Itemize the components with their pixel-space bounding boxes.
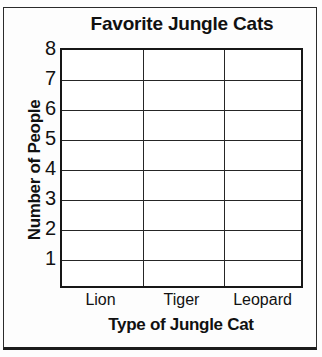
x-axis-tick-label: Lion [60,291,141,313]
y-axis-tick-label: 4 [30,158,56,178]
plot-area [60,48,303,288]
y-axis-tick-label: 1 [30,248,56,268]
x-axis-title: Type of Jungle Cat [52,315,310,335]
y-axis-tick-label: 7 [30,68,56,88]
y-axis-tick-labels: 87654321 [30,48,56,288]
y-axis-tick-label: 8 [30,38,56,58]
worksheet-page: Favorite Jungle Cats Number of People 87… [0,0,322,357]
x-axis-tick-label: Tiger [141,291,222,313]
y-axis-tick-label: 5 [30,128,56,148]
y-axis-tick-label: 6 [30,98,56,118]
x-axis-tick-label: Leopard [222,291,303,313]
bars-layer [62,50,301,286]
x-axis-tick-labels: LionTigerLeopard [60,291,303,313]
y-axis-tick-label: 2 [30,218,56,238]
chart-title: Favorite Jungle Cats [60,13,304,35]
y-axis-tick-label: 3 [30,188,56,208]
